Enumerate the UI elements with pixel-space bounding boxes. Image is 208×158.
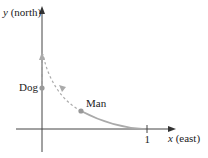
x-axis-label: x (east) xyxy=(167,132,200,145)
dog-dot xyxy=(39,85,44,90)
man-path-arrow-icon xyxy=(59,85,66,92)
man-path-dashed xyxy=(43,54,81,111)
pursuit-diagram: y (north) x (east) 1 Dog Man xyxy=(0,0,208,158)
y-axis-label: y (north) xyxy=(2,6,42,19)
dog-label: Dog xyxy=(19,81,38,93)
man-path-solid xyxy=(81,111,145,129)
x-tick-label: 1 xyxy=(145,133,151,145)
man-label: Man xyxy=(86,97,107,109)
man-dot xyxy=(78,108,83,113)
